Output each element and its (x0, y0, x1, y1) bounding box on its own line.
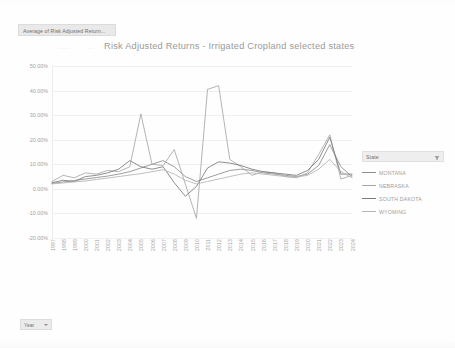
x-axis-tick-label: 2015 (250, 239, 256, 251)
legend-items: MONTANANEBRASKASOUTH DAKOTAWYOMING (362, 166, 444, 218)
legend-item[interactable]: MONTANA (362, 166, 444, 179)
y-axis-tick-label: -10.00% (14, 210, 48, 216)
x-axis-tick-label: 2017 (272, 239, 278, 251)
plot-area (52, 66, 352, 238)
x-axis-tick-label: 2022 (327, 239, 333, 251)
y-axis-tick-label: 0.00% (14, 186, 48, 192)
y-axis-tick-label: 50.00% (14, 63, 48, 69)
x-axis-tick-label: 2006 (150, 239, 156, 251)
x-axis-tick-label: 2012 (216, 239, 222, 251)
x-axis-tick-label: 2008 (172, 239, 178, 251)
x-axis-labels: 1997199819992000200120022003200420052006… (52, 239, 352, 269)
x-axis-tick-label: 2003 (116, 239, 122, 251)
legend-header-label: State (366, 152, 379, 162)
y-axis-tick-label: 20.00% (14, 137, 48, 143)
x-axis-tick-label: 2018 (283, 239, 289, 251)
legend-item-label: WYOMING (379, 209, 406, 215)
legend-color-swatch (362, 172, 376, 174)
x-axis-tick-label: 2011 (205, 239, 211, 251)
legend-color-swatch (362, 211, 376, 213)
x-axis-tick-label: 2023 (338, 239, 344, 251)
chart-title: Risk Adjusted Returns - Irrigated Cropla… (104, 41, 374, 51)
x-axis-tick-label: 2020 (305, 239, 311, 251)
legend-item-label: NEBRASKA (379, 183, 409, 189)
legend-item[interactable]: WYOMING (362, 205, 444, 218)
legend-item-label: MONTANA (379, 170, 406, 176)
x-axis-tick-label: 1998 (61, 239, 67, 251)
x-axis-tick-label: 1999 (72, 239, 78, 251)
report-canvas: Average of Risk Adjusted Return... .....… (0, 0, 455, 348)
pivot-field-tab[interactable]: Average of Risk Adjusted Return... (18, 24, 116, 36)
chevron-down-icon[interactable] (44, 324, 48, 326)
year-slicer-label: Year (24, 320, 34, 330)
x-axis-tick-label: 2001 (94, 239, 100, 251)
legend-color-swatch (362, 185, 376, 187)
year-slicer-button[interactable]: Year (20, 319, 52, 330)
x-axis-tick-label: 2014 (238, 239, 244, 251)
series-line-south-dakota (52, 137, 352, 196)
series-line-wyoming (52, 159, 352, 184)
y-axis-tick-label: -20.00% (14, 235, 48, 241)
x-axis-tick-label: 2024 (350, 239, 356, 251)
filter-funnel-icon[interactable] (434, 155, 440, 161)
series-lines (52, 66, 352, 238)
scan-artifact-left: ...... (58, 44, 70, 50)
x-axis-tick-label: 2007 (161, 239, 167, 251)
x-axis-tick-label: 2005 (138, 239, 144, 251)
y-axis-tick-label: 40.00% (14, 88, 48, 94)
x-axis-tick-label: 2019 (294, 239, 300, 251)
legend-header[interactable]: State (362, 151, 444, 162)
y-axis-tick-label: 30.00% (14, 112, 48, 118)
scan-artifact-right: ... (88, 44, 94, 50)
x-axis-tick-label: 2004 (127, 239, 133, 251)
x-axis-tick-label: 2021 (316, 239, 322, 251)
x-axis-tick-label: 2002 (105, 239, 111, 251)
x-axis-tick-label: 2010 (194, 239, 200, 251)
x-axis-tick-label: 2000 (83, 239, 89, 251)
legend: State MONTANANEBRASKASOUTH DAKOTAWYOMING (362, 151, 444, 218)
y-axis-tick-label: 10.00% (14, 161, 48, 167)
x-axis-tick-label: 2013 (227, 239, 233, 251)
x-axis-tick-label: 2016 (261, 239, 267, 251)
x-axis-tick-label: 2009 (183, 239, 189, 251)
x-axis-tick-label: 1997 (50, 239, 56, 251)
legend-color-swatch (362, 198, 376, 200)
legend-item[interactable]: SOUTH DAKOTA (362, 192, 444, 205)
series-line-nebraska (52, 86, 352, 219)
legend-item[interactable]: NEBRASKA (362, 179, 444, 192)
legend-item-label: SOUTH DAKOTA (379, 196, 422, 202)
